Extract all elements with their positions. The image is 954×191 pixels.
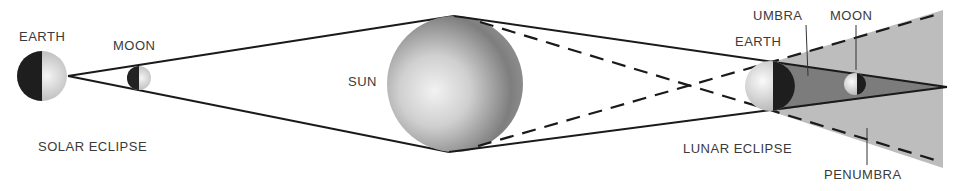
moon-solar-icon (127, 66, 151, 90)
sun-label: SUN (348, 74, 377, 89)
penumbra-label: PENUMBRA (824, 167, 902, 182)
eclipse-diagram (0, 0, 954, 191)
earth-solar-icon (17, 51, 67, 101)
earth-lunar-icon (745, 61, 795, 111)
moon-label-lunar: MOON (830, 8, 872, 23)
lunar-eclipse-label: LUNAR ECLIPSE (683, 141, 792, 156)
earth-label-solar: EARTH (19, 29, 65, 44)
solar-eclipse-label: SOLAR ECLIPSE (38, 139, 147, 154)
umbra-label: UMBRA (753, 8, 802, 23)
sun-sphere (387, 16, 523, 152)
moon-lunar-icon (844, 73, 866, 95)
earth-label-lunar: EARTH (735, 34, 781, 49)
moon-label-solar: MOON (113, 38, 155, 53)
